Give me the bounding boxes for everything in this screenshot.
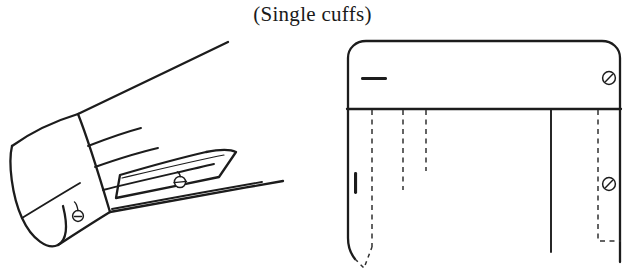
right-panel-flat-pattern — [347, 41, 621, 268]
cuff-button-mark — [73, 202, 84, 221]
sleeve-buttonhole-mark — [354, 172, 357, 194]
pleat-fold-v — [355, 247, 372, 268]
placket-fold-line — [598, 110, 621, 241]
cuff-band-flat-outline — [348, 41, 620, 109]
cuff-band-top-edge — [12, 114, 78, 146]
placket-buttonhole-mark — [174, 172, 187, 188]
cuff-buttonhole-mark — [361, 77, 387, 80]
cuff-inner-fold-line — [22, 183, 80, 218]
left-panel-perspective-sleeve — [10, 42, 283, 246]
sleeve-gather-line-4 — [112, 182, 262, 209]
figure-root: (Single cuffs) — [0, 0, 625, 273]
sleeve-upper-edge — [78, 42, 228, 114]
cuff-button-mark — [603, 72, 616, 85]
sleeve-gather-line-1 — [88, 128, 141, 146]
placket-inner-edge — [122, 155, 224, 178]
sleeve-gather-line-2 — [95, 148, 158, 167]
sleeve-placket-outline — [116, 150, 236, 198]
sleeve-button-mark — [603, 178, 616, 191]
sleeve-left-edge — [348, 109, 355, 259]
sleeve-lower-edge — [110, 181, 283, 212]
illustration-canvas — [0, 0, 625, 273]
